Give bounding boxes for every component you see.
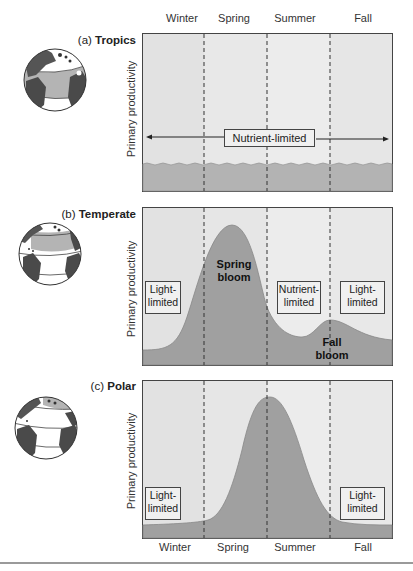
season-label-fall-top: Fall bbox=[333, 12, 393, 24]
panel-title-tropics: (a) Tropics bbox=[78, 34, 136, 46]
label-line: bloom bbox=[310, 349, 354, 362]
panel-name: Temperate bbox=[79, 208, 136, 220]
label-nutrient-limited-tropics: Nutrient-limited bbox=[224, 129, 315, 147]
label-fall-bloom: Fall bloom bbox=[310, 336, 354, 362]
label-line: limited bbox=[341, 502, 384, 515]
label-line: Light- bbox=[146, 489, 180, 502]
label-line: bloom bbox=[212, 271, 256, 284]
season-label-summer-top: Summer bbox=[265, 12, 325, 24]
label-line: Light- bbox=[341, 489, 384, 502]
divider-line bbox=[0, 562, 413, 564]
season-label-spring-bottom: Spring bbox=[203, 541, 263, 553]
season-label-summer-bottom: Summer bbox=[265, 541, 325, 553]
panel-title-polar: (c) Polar bbox=[91, 380, 136, 392]
label-light-limited-winter-polar: Light- limited bbox=[145, 487, 181, 520]
label-line: limited bbox=[146, 502, 180, 515]
label-line: limited bbox=[341, 296, 384, 309]
panel-prefix: (a) bbox=[78, 34, 92, 46]
label-line: Spring bbox=[212, 258, 256, 271]
label-line: Light- bbox=[146, 283, 180, 296]
globe-tropics-icon bbox=[22, 47, 88, 113]
chart-tropics bbox=[142, 33, 394, 193]
label-line: limited bbox=[146, 296, 180, 309]
panel-name: Tropics bbox=[95, 34, 136, 46]
season-label-fall-bottom: Fall bbox=[333, 541, 393, 553]
panel-name: Polar bbox=[107, 380, 136, 392]
label-line: Fall bbox=[310, 336, 354, 349]
season-label-winter-top: Winter bbox=[152, 12, 212, 24]
season-label-winter-bottom: Winter bbox=[145, 541, 205, 553]
panel-title-temperate: (b) Temperate bbox=[61, 208, 136, 220]
panel-prefix: (c) bbox=[91, 380, 104, 392]
season-label-spring-top: Spring bbox=[204, 12, 264, 24]
y-axis-label-polar: Primary productivity bbox=[125, 406, 137, 516]
label-line: Nutrient- bbox=[278, 283, 320, 296]
globe-polar-icon bbox=[13, 395, 79, 461]
globe-temperate-icon bbox=[17, 221, 83, 287]
label-light-limited-winter-temperate: Light- limited bbox=[145, 281, 181, 314]
label-nutrient-limited-temperate: Nutrient- limited bbox=[277, 281, 321, 314]
label-light-limited-fall-polar: Light- limited bbox=[340, 487, 385, 520]
panel-prefix: (b) bbox=[61, 208, 75, 220]
y-axis-label-tropics: Primary productivity bbox=[125, 54, 137, 164]
label-line: Light- bbox=[341, 283, 384, 296]
label-spring-bloom: Spring bloom bbox=[212, 258, 256, 284]
label-line: limited bbox=[278, 296, 320, 309]
label-light-limited-fall-temperate: Light- limited bbox=[340, 281, 385, 314]
label-text: Nutrient-limited bbox=[233, 132, 307, 144]
y-axis-label-temperate: Primary productivity bbox=[125, 234, 137, 344]
